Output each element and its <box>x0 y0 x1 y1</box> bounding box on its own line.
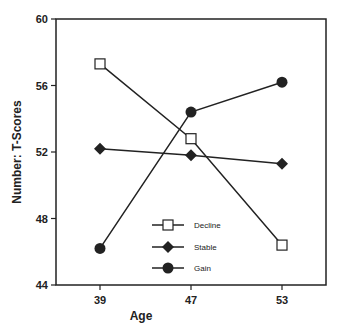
series-stable <box>94 143 288 170</box>
series-group <box>94 59 288 254</box>
circle-marker-icon <box>186 107 197 118</box>
circle-marker-icon <box>95 243 106 254</box>
legend-label: Stable <box>194 243 217 252</box>
y-tick-label: 48 <box>36 213 48 225</box>
y-tick-label: 60 <box>36 13 48 25</box>
line-chart: 4448525660394753 DeclineStableGain Age N… <box>0 0 349 334</box>
x-tick-label: 39 <box>94 294 106 306</box>
circle-marker-icon <box>277 77 288 88</box>
diamond-marker-icon <box>162 241 174 253</box>
legend-label: Decline <box>194 221 221 230</box>
square-marker-icon <box>277 240 287 250</box>
series-gain <box>95 77 288 254</box>
square-marker-icon <box>95 59 105 69</box>
legend: DeclineStableGain <box>152 220 221 274</box>
square-marker-icon <box>163 220 173 230</box>
legend-item-decline: Decline <box>152 220 221 230</box>
square-marker-icon <box>186 134 196 144</box>
y-tick-label: 56 <box>36 80 48 92</box>
diamond-marker-icon <box>276 158 288 170</box>
x-axis-title: Age <box>130 309 153 323</box>
legend-item-gain: Gain <box>152 263 211 274</box>
x-tick-label: 53 <box>276 294 288 306</box>
x-tick-label: 47 <box>185 294 197 306</box>
y-tick-label: 44 <box>36 279 49 291</box>
circle-marker-icon <box>163 263 174 274</box>
diamond-marker-icon <box>185 149 197 161</box>
y-axis-title: Number: T-Scores <box>10 100 24 204</box>
y-tick-label: 52 <box>36 146 48 158</box>
diamond-marker-icon <box>94 143 106 155</box>
legend-item-stable: Stable <box>152 241 217 253</box>
legend-label: Gain <box>194 264 211 273</box>
